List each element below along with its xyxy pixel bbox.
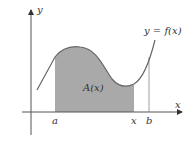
area-label: A(x) (82, 82, 104, 93)
shaded-area (55, 47, 134, 112)
area-function-diagram: y x y = f(x) A(x) a x b (0, 0, 186, 143)
x-axis-label: x (175, 99, 181, 110)
tick-label-x: x (131, 115, 137, 126)
y-axis-label: y (36, 4, 43, 15)
curve-label: y = f(x) (143, 25, 182, 36)
tick-label-b: b (146, 115, 152, 126)
tick-label-a: a (52, 115, 58, 126)
